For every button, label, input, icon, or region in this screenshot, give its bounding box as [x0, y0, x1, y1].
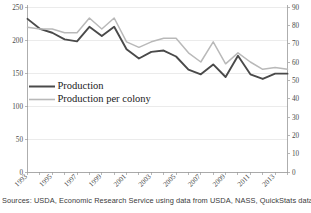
left-tick-label: 50 — [16, 136, 24, 144]
x-tick-label: 1999 — [87, 172, 103, 188]
right-tick-label: 70 — [292, 40, 300, 48]
source-note: Sources: USDA, Economic Research Service… — [2, 196, 309, 205]
right-tick-label: 40 — [292, 95, 300, 103]
left-axis-labels: 050100150200250 — [12, 4, 23, 177]
x-tick-label: 1997 — [63, 172, 79, 188]
left-tick-label: 150 — [12, 70, 23, 78]
x-tick-label: 2007 — [186, 172, 202, 188]
series-line-production-per-colony — [28, 18, 288, 69]
right-tick-label: 80 — [292, 22, 300, 30]
right-tick-label: 20 — [292, 132, 300, 140]
x-tick-label: 2009 — [211, 172, 227, 188]
x-axis-labels: 1993199519971999200120032005200720092011… — [13, 172, 277, 188]
x-tick-label: 2001 — [112, 172, 128, 188]
x-tick-label: 2003 — [137, 172, 153, 188]
right-tick-label: 50 — [292, 77, 300, 85]
series-line-production — [28, 19, 288, 79]
plot-area: 050100150200250 0102030405060708090 1993… — [0, 0, 311, 190]
right-tick-label: 10 — [292, 150, 300, 158]
legend-label-production: Production — [58, 80, 105, 91]
left-tick-label: 200 — [12, 37, 23, 45]
x-tick-label: 2005 — [162, 172, 178, 188]
right-tick-label: 30 — [292, 114, 300, 122]
chart-legend: ProductionProduction per colony — [29, 80, 152, 104]
x-tick-label: 2011 — [236, 172, 252, 188]
left-tick-label: 100 — [12, 103, 23, 111]
legend-label-production-per-colony: Production per colony — [58, 93, 152, 104]
line-chart-svg: 050100150200250 0102030405060708090 1993… — [0, 0, 311, 190]
right-tick-label: 60 — [292, 59, 300, 67]
x-tick-label: 1993 — [13, 172, 29, 188]
right-axis-labels: 0102030405060708090 — [292, 4, 300, 177]
right-tick-label: 90 — [292, 4, 300, 12]
chart-figure: 050100150200250 0102030405060708090 1993… — [0, 0, 311, 213]
left-tick-label: 250 — [12, 4, 23, 12]
data-series — [28, 18, 288, 79]
x-tick-label: 2013 — [261, 172, 277, 188]
x-tick-label: 1995 — [38, 172, 54, 188]
right-tick-label: 0 — [292, 169, 296, 177]
